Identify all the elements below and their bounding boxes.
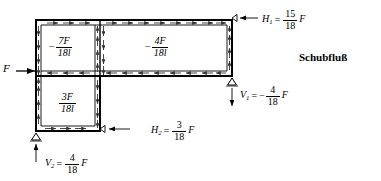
factor-H2: F <box>187 124 194 135</box>
equals-H2: = <box>162 126 172 136</box>
applied-force-label: F <box>3 63 10 74</box>
fraction-H2: 318 <box>172 120 186 142</box>
denominator-H1: 18 <box>283 20 297 32</box>
sign-upper-right: − <box>145 42 151 52</box>
fraction-lower-left: 3F18l <box>59 92 76 114</box>
denominator-H2: 18 <box>172 131 186 143</box>
shear-flow-label-lower-left: 3F18l <box>58 92 77 114</box>
numerator-upper-left: 7F <box>56 36 73 47</box>
factor-V2: F <box>80 157 87 168</box>
shear-flow-label-upper-right: −4F18l <box>145 36 169 58</box>
fraction-upper-right: 4F18l <box>152 36 169 58</box>
denominator-V2: 18 <box>65 164 79 176</box>
denominator-upper-right: 18l <box>152 47 169 59</box>
reaction-label-H1: H1=1518F <box>262 9 305 31</box>
equals-V1: = <box>250 91 260 101</box>
equals-V2: = <box>55 159 65 169</box>
diagram-caption: Schubfluß <box>299 52 347 63</box>
shear-flow-diagram: F −7F18l −4F18l 3F18l H1=1518F V1=−418F … <box>0 0 381 181</box>
reaction-label-V1: V1=−418F <box>240 85 288 107</box>
support-bottom-left <box>30 133 42 141</box>
denominator-upper-left: 18l <box>56 47 73 59</box>
denominator-lower-left: 18l <box>59 103 76 115</box>
numerator-V1: 4 <box>266 85 280 96</box>
reaction-arrow-H2 <box>100 126 130 133</box>
fraction-H1: 1518 <box>283 9 297 31</box>
numerator-V2: 4 <box>65 153 79 164</box>
reaction-arrow-H1 <box>232 15 258 22</box>
sign-upper-left: − <box>49 42 55 52</box>
fraction-V2: 418 <box>65 153 79 175</box>
support-right <box>226 78 238 86</box>
shear-flow-label-upper-left: −7F18l <box>49 36 73 58</box>
numerator-lower-left: 3F <box>59 92 76 103</box>
fraction-upper-left: 7F18l <box>56 36 73 58</box>
factor-V1: F <box>281 89 288 100</box>
sign-V1: − <box>259 91 265 101</box>
reaction-label-V2: V2=418F <box>45 153 87 175</box>
numerator-H2: 3 <box>172 120 186 131</box>
reaction-label-H2: H2=318F <box>151 120 194 142</box>
denominator-V1: 18 <box>266 96 280 108</box>
fraction-V1: 418 <box>266 85 280 107</box>
numerator-H1: 15 <box>283 9 297 20</box>
equals-H1: = <box>273 15 283 25</box>
numerator-upper-right: 4F <box>152 36 169 47</box>
factor-H1: F <box>298 13 305 24</box>
